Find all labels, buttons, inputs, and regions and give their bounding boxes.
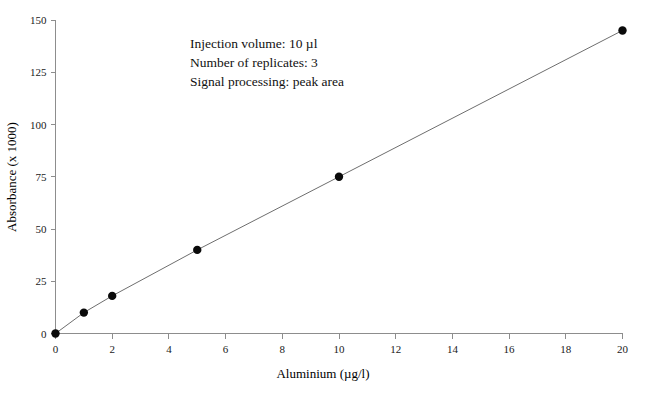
x-tick-label: 10 xyxy=(334,343,346,355)
x-tick-label: 14 xyxy=(447,343,459,355)
data-point-marker xyxy=(618,26,626,34)
data-point-marker xyxy=(193,246,201,254)
y-tick-label: 125 xyxy=(30,66,47,78)
data-point-marker xyxy=(51,329,59,337)
x-axis-title: Aluminium (µg/l) xyxy=(276,366,369,381)
x-axis-ticks: 02468101214161820 xyxy=(53,334,629,355)
y-tick-label: 100 xyxy=(30,119,47,131)
x-tick-label: 6 xyxy=(223,343,229,355)
y-tick-label: 25 xyxy=(36,275,48,287)
y-tick-label: 50 xyxy=(36,223,48,235)
x-tick-label: 20 xyxy=(617,343,629,355)
data-point-marker xyxy=(80,308,88,316)
annotation-line: Injection volume: 10 µl xyxy=(190,36,318,51)
y-axis-ticks: 0255075100125150 xyxy=(30,14,56,340)
calibration-curve-chart: 0255075100125150 02468101214161820 Alumi… xyxy=(0,0,646,397)
data-point-marker xyxy=(335,173,343,181)
y-tick-label: 75 xyxy=(36,171,48,183)
x-tick-label: 2 xyxy=(109,343,115,355)
annotation-block: Injection volume: 10 µlNumber of replica… xyxy=(190,36,344,89)
annotation-line: Number of replicates: 3 xyxy=(190,55,318,70)
data-series-group xyxy=(51,26,626,337)
data-point-marker xyxy=(108,292,116,300)
annotation-line: Signal processing: peak area xyxy=(190,74,344,89)
y-axis-title: Absorbance (x 1000) xyxy=(4,122,19,232)
y-tick-label: 0 xyxy=(41,328,47,340)
x-tick-label: 4 xyxy=(166,343,172,355)
chart-canvas: 0255075100125150 02468101214161820 Alumi… xyxy=(0,0,646,397)
x-tick-label: 12 xyxy=(390,343,401,355)
x-tick-label: 18 xyxy=(560,343,572,355)
x-tick-label: 8 xyxy=(280,343,286,355)
x-tick-label: 0 xyxy=(53,343,59,355)
y-tick-label: 150 xyxy=(30,14,47,26)
x-tick-label: 16 xyxy=(504,343,516,355)
